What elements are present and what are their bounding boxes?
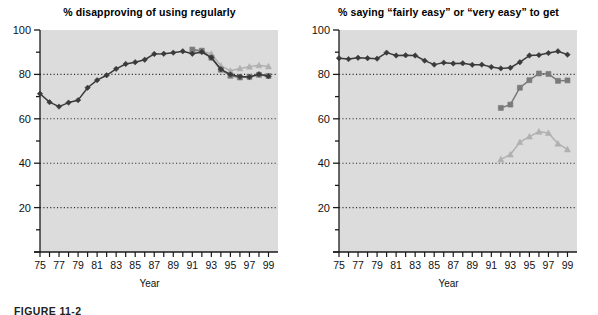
svg-text:99: 99 xyxy=(562,259,574,271)
svg-text:87: 87 xyxy=(447,259,459,271)
svg-text:77: 77 xyxy=(352,259,364,271)
svg-text:97: 97 xyxy=(244,259,256,271)
svg-text:100: 100 xyxy=(312,24,330,36)
svg-text:80: 80 xyxy=(318,68,330,80)
svg-text:89: 89 xyxy=(167,259,179,271)
svg-text:60: 60 xyxy=(19,113,31,125)
chart-panel-right: % saying “fairly easy” or “very easy” to… xyxy=(299,0,598,315)
x-axis-title-right: Year xyxy=(299,278,598,289)
svg-text:99: 99 xyxy=(263,259,275,271)
svg-text:85: 85 xyxy=(129,259,141,271)
svg-text:81: 81 xyxy=(390,259,402,271)
x-axis-title-left: Year xyxy=(0,278,299,289)
chart-panel-left: % disapproving of using regularly 204060… xyxy=(0,0,299,315)
svg-text:97: 97 xyxy=(543,259,555,271)
svg-text:100: 100 xyxy=(13,24,31,36)
svg-text:83: 83 xyxy=(409,259,421,271)
svg-text:91: 91 xyxy=(186,259,198,271)
svg-text:95: 95 xyxy=(524,259,536,271)
svg-text:40: 40 xyxy=(19,157,31,169)
plot-area-left: 2040608010075777981838587899193959799 xyxy=(40,30,278,252)
svg-text:85: 85 xyxy=(428,259,440,271)
svg-text:89: 89 xyxy=(466,259,478,271)
plot-svg-right: 2040608010075777981838587899193959799 xyxy=(299,0,598,285)
svg-text:75: 75 xyxy=(34,259,46,271)
plot-svg-left: 2040608010075777981838587899193959799 xyxy=(0,0,299,285)
svg-text:60: 60 xyxy=(318,113,330,125)
svg-text:20: 20 xyxy=(19,202,31,214)
svg-text:75: 75 xyxy=(333,259,345,271)
svg-text:79: 79 xyxy=(371,259,383,271)
svg-text:77: 77 xyxy=(53,259,65,271)
svg-text:40: 40 xyxy=(318,157,330,169)
svg-text:95: 95 xyxy=(225,259,237,271)
svg-text:79: 79 xyxy=(72,259,84,271)
svg-text:93: 93 xyxy=(505,259,517,271)
svg-text:93: 93 xyxy=(206,259,218,271)
svg-text:80: 80 xyxy=(19,68,31,80)
svg-text:87: 87 xyxy=(148,259,160,271)
svg-text:81: 81 xyxy=(91,259,103,271)
figure-caption: FIGURE 11-2 xyxy=(14,305,81,315)
svg-text:20: 20 xyxy=(318,202,330,214)
svg-text:91: 91 xyxy=(485,259,497,271)
plot-area-right: 2040608010075777981838587899193959799 xyxy=(339,30,577,252)
svg-text:83: 83 xyxy=(110,259,122,271)
figure-container: % disapproving of using regularly 204060… xyxy=(0,0,598,315)
